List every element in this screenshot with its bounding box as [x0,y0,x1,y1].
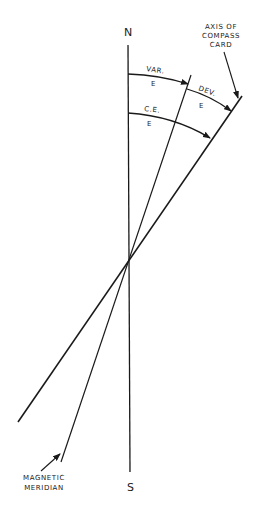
variation-label: VAR. [146,65,165,75]
axis-label-line2: COMPASS [202,32,240,40]
compass-error-direction-label: E [147,120,152,128]
compass-error-diagram: N S VAR. E DEV. E C.E. E AXIS OF COMPASS… [0,0,261,516]
axis-leader-arrow [224,52,238,98]
north-label: N [124,26,132,39]
magnetic-meridian-leader-arrow [41,454,60,471]
deviation-direction-label: E [199,102,204,110]
magnetic-meridian-label-line2: MERIDIAN [24,484,64,492]
compass-error-arc [128,113,210,138]
variation-arc [128,74,188,84]
south-label: S [127,481,134,494]
magnetic-meridian-label-line1: MAGNETIC [23,474,65,482]
compass-error-label: C.E. [144,105,161,115]
variation-direction-label: E [151,80,156,88]
axis-label-line3: CARD [210,41,232,49]
axis-label-line1: AXIS OF [205,23,237,31]
magnetic-meridian-line [61,75,191,462]
